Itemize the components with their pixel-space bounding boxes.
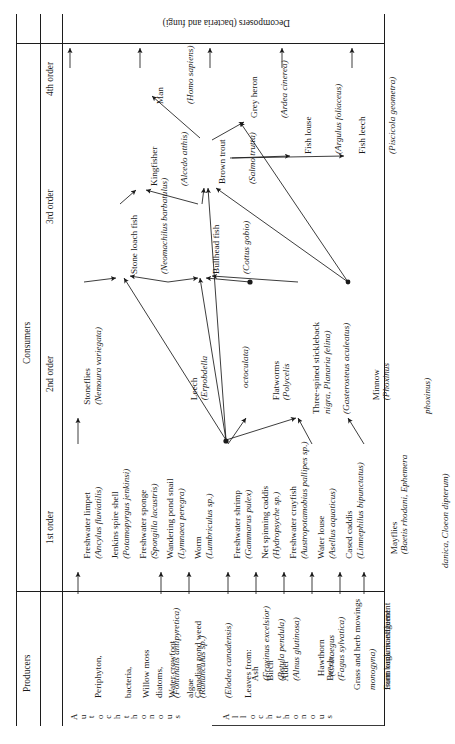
node-dot-minnow-hub (346, 280, 351, 285)
node-dots (223, 279, 350, 443)
arrow-stickleback-to-bullhead (212, 276, 298, 282)
node-dot-shrimp-hub (223, 438, 228, 443)
arrow-stoneflies-to-stoneloach (84, 278, 116, 282)
arrow-waterlouse-to-stickleback (298, 418, 312, 444)
arrow-shrimp-to-stoneloach (124, 278, 226, 440)
arrow-leech-to-bullhead (168, 278, 198, 282)
arrow-stoneloach-to-kingfisher (120, 190, 136, 204)
arrow-minnow-to-trout (216, 188, 348, 282)
arrow-bullhead-to-trout (202, 188, 204, 204)
arrow-shrimp-to-flatworms (228, 418, 246, 444)
arrow-bullhead-to-kingfisher (146, 190, 198, 204)
arrow-shrimp-to-trout (208, 188, 226, 440)
arrow-shrimp-to-bullhead (200, 278, 226, 440)
arrow-minnow-to-heron (240, 122, 348, 282)
arrow-shrimp-to-stickleback (226, 418, 296, 440)
taxon-latin: (Baetis rhodani, Ephemera (399, 455, 409, 555)
taxon-latin2: danica, Cloeon dipterum) (440, 455, 450, 568)
arrow-mayflies-to-minnow (348, 418, 364, 444)
arrow-trout-to-man (152, 96, 200, 138)
taxon-latin2: phoxinus) (422, 363, 432, 414)
node-dot-flatworms-hub (247, 279, 252, 284)
arrow-leech-to-stoneloach (130, 276, 168, 282)
arrow-trout-to-heron (212, 122, 244, 140)
